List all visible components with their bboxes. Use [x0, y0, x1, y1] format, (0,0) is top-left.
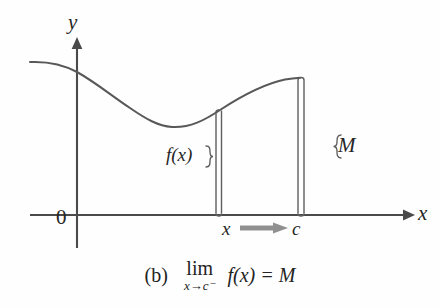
brace-fx [206, 146, 213, 167]
ordinate-segment-x [216, 110, 222, 216]
caption-limit-operator-stack: lim x→c⁻ [184, 258, 216, 292]
caption-panel-tag: (b) [145, 264, 168, 287]
x-axis-arrowhead [403, 210, 415, 221]
origin-label: 0 [56, 207, 67, 228]
caption-lim-text: lim [184, 258, 216, 278]
ordinate-segment-c [298, 78, 304, 217]
limit-value-label: M [338, 135, 356, 156]
caption-lim-subscript: x→c⁻ [184, 279, 216, 292]
y-axis-group [72, 37, 83, 248]
caption-expression: f(x) = M [227, 264, 295, 287]
x-axis-label: x [418, 203, 427, 224]
figure-caption: (b) lim x→c⁻ f(x) = M [0, 258, 440, 292]
limit-figure: y x 0 x c f(x) M (b) lim x→c⁻ f(x) = M [0, 0, 440, 308]
c-point-label: c [292, 219, 300, 238]
function-value-label: f(x) [166, 145, 192, 164]
approach-arrow-icon [240, 223, 288, 234]
y-axis-label: y [68, 12, 77, 33]
y-axis-arrowhead [72, 37, 83, 49]
function-curve [30, 62, 300, 127]
x-point-label: x [222, 219, 230, 238]
